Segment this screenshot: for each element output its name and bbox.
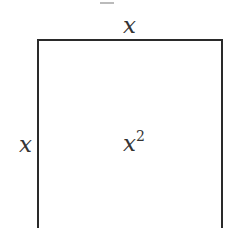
top-side-label: x (123, 14, 136, 37)
area-label-exponent: 2 (136, 128, 145, 144)
cropped-glyph (100, 0, 114, 4)
area-label-base: x (123, 130, 136, 156)
left-side-label: x (19, 133, 32, 156)
area-label: x2 (123, 132, 145, 155)
